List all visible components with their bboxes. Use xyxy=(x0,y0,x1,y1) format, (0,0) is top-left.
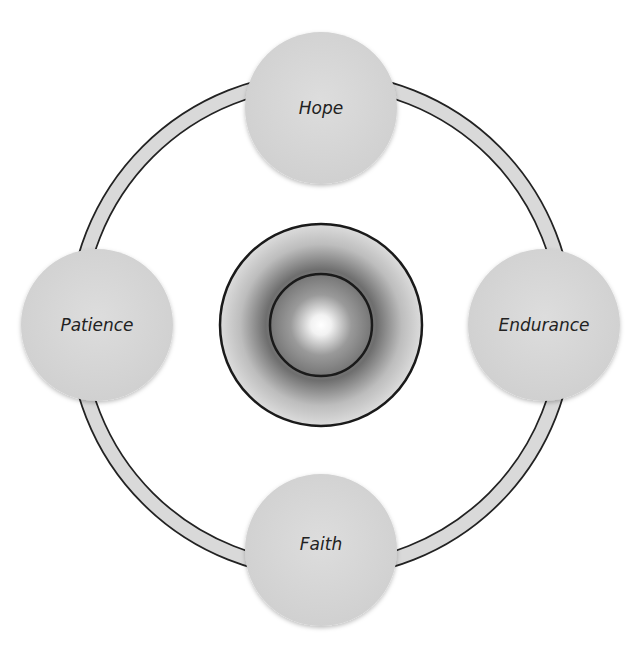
node-hope-label: Hope xyxy=(299,98,343,118)
node-faith-label: Faith xyxy=(300,534,342,554)
node-patience-label: Patience xyxy=(60,315,133,335)
cycle-diagram: Hope Endurance Faith Patience xyxy=(0,0,642,649)
center-hub xyxy=(220,224,422,426)
node-endurance-label: Endurance xyxy=(498,315,589,335)
